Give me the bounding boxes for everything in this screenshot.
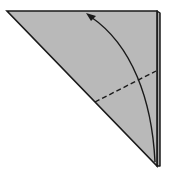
origami-diagram [0, 0, 173, 172]
paper-triangle [7, 11, 157, 166]
